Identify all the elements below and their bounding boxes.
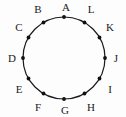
vertex-point-l xyxy=(83,21,87,25)
vertex-label-g: G xyxy=(61,105,69,116)
vertex-point-e xyxy=(27,77,31,81)
vertex-label-c: C xyxy=(15,22,22,33)
vertex-label-k: K xyxy=(106,22,114,33)
vertex-point-g xyxy=(62,97,66,101)
vertex-point-j xyxy=(103,56,107,60)
vertex-point-b xyxy=(42,21,46,25)
vertex-point-d xyxy=(21,56,25,60)
vertex-label-f: F xyxy=(35,102,41,113)
vertex-point-h xyxy=(83,92,87,96)
vertex-marker-group xyxy=(21,15,107,101)
vertex-label-d: D xyxy=(8,53,16,64)
vertex-label-i: I xyxy=(108,84,112,95)
circle-outline xyxy=(23,17,105,99)
vertex-label-h: H xyxy=(87,102,95,113)
vertex-label-l: L xyxy=(88,4,95,15)
vertex-label-a: A xyxy=(62,2,70,13)
vertex-point-c xyxy=(27,36,31,40)
vertex-point-i xyxy=(98,77,102,81)
vertex-point-k xyxy=(98,36,102,40)
vertex-point-a xyxy=(62,15,66,19)
vertex-label-j: J xyxy=(114,53,118,64)
circle-graphic xyxy=(0,0,126,117)
vertex-point-f xyxy=(42,92,46,96)
circle-diagram: ABCDEFGHIJKL xyxy=(0,0,126,117)
vertex-label-b: B xyxy=(34,4,41,15)
vertex-label-e: E xyxy=(16,84,23,95)
